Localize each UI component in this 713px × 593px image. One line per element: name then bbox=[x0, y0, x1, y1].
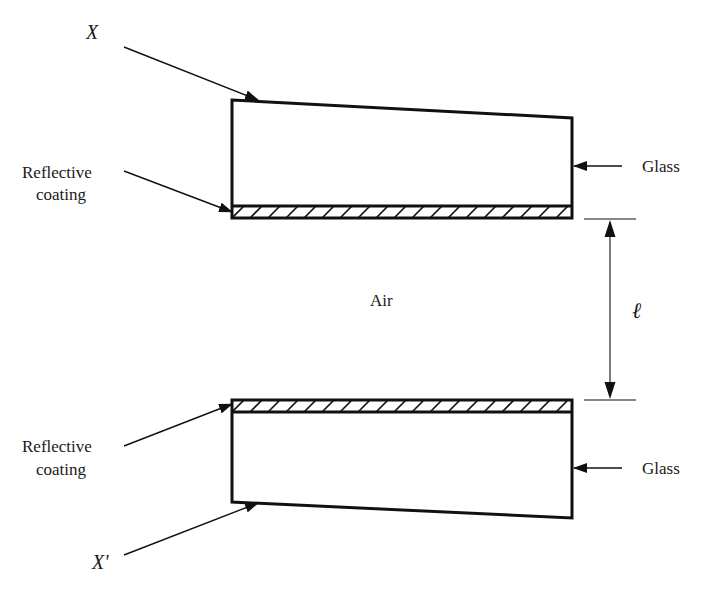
cavity-diagram: X Reflective coating Glass Air ℓ Reflect… bbox=[0, 0, 713, 593]
label-x-prime: X' bbox=[91, 551, 109, 573]
x-prime-leader-arrow bbox=[124, 503, 258, 555]
bottom-glass-plate bbox=[232, 398, 588, 518]
label-top-coating-line1: Reflective bbox=[22, 163, 92, 182]
label-bottom-glass: Glass bbox=[642, 459, 680, 478]
label-top-coating-line2: coating bbox=[36, 185, 87, 204]
label-bottom-coating-line2: coating bbox=[36, 460, 87, 479]
label-top-glass: Glass bbox=[642, 157, 680, 176]
bottom-coating-leader-arrow bbox=[124, 404, 232, 446]
label-x: X bbox=[85, 21, 99, 43]
label-bottom-coating-line1: Reflective bbox=[22, 437, 92, 456]
dimension-arrowhead-down-icon bbox=[605, 382, 616, 399]
top-coating-leader-arrow bbox=[124, 171, 232, 212]
label-air: Air bbox=[370, 291, 393, 310]
bottom-glass-outline bbox=[232, 400, 572, 518]
x-leader-arrow bbox=[124, 47, 258, 100]
dimension-arrowhead-up-icon bbox=[605, 220, 616, 237]
gap-dimension bbox=[584, 219, 636, 400]
top-glass-plate bbox=[232, 100, 588, 218]
label-gap-length: ℓ bbox=[632, 298, 642, 323]
top-glass-outline bbox=[232, 100, 572, 218]
